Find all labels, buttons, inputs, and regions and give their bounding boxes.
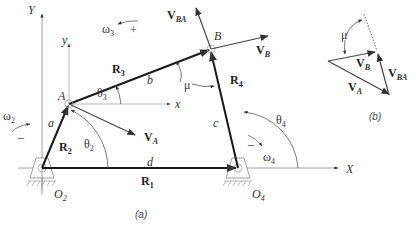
mu-label: μ	[184, 78, 190, 92]
link-r4	[211, 52, 238, 168]
point-a-label: A	[57, 89, 66, 103]
point-o2-label: O2	[54, 187, 67, 203]
link-r2	[42, 106, 68, 168]
length-a-label: a	[48, 116, 54, 130]
mu-arrow-to-r4	[192, 84, 214, 87]
va-label: VA	[144, 130, 159, 146]
triangle-mu-label: μ	[341, 28, 347, 42]
omega3-label: ω3	[102, 22, 114, 38]
length-d-label: d	[147, 155, 154, 169]
theta4-label: θ4	[276, 113, 286, 129]
vba-label: VBA	[167, 8, 187, 24]
r4-label: R4	[230, 73, 243, 89]
triangle-va-label: VA	[348, 80, 363, 96]
omega2-sign: –	[17, 130, 25, 144]
global-axes: Y X	[18, 3, 354, 190]
velocity-vba-vector	[196, 8, 211, 49]
vb-label: VB	[256, 43, 271, 59]
r2-label: R2	[59, 140, 72, 156]
velocity-va-vector	[69, 104, 135, 135]
global-y-label: Y	[28, 3, 36, 17]
mu-arrow-to-r3	[176, 62, 181, 82]
triangle-mu-arrow-bottom	[345, 40, 346, 54]
global-x-label: X	[345, 162, 354, 176]
link-r3	[69, 50, 209, 104]
triangle-vb-label: VB	[356, 56, 371, 72]
theta2-label: θ2	[84, 137, 94, 153]
theta3-label: θ3	[97, 86, 107, 102]
part-a-linkage: Y X y x	[3, 3, 354, 220]
caption-a: (a)	[135, 209, 147, 220]
point-b-label: B	[214, 29, 222, 43]
point-o4-label: O4	[252, 187, 265, 203]
caption-b: (b)	[369, 111, 381, 122]
triangle-vba-label: VBA	[388, 66, 408, 82]
omega4-sign: –	[247, 137, 255, 151]
ground-pivot-o2	[27, 158, 56, 195]
r1-label: R1	[141, 174, 154, 190]
triangle-vb-vector	[328, 52, 375, 61]
r3-label: R3	[112, 62, 125, 78]
reference-dotted-line	[364, 14, 377, 51]
triangle-mu-arrow-top	[346, 20, 362, 36]
local-x-label: x	[174, 97, 181, 111]
part-b-velocity-triangle: μ VB VA VBA (b)	[328, 14, 408, 122]
omega4-label: ω4	[263, 150, 275, 166]
omega3-sign: +	[130, 23, 137, 37]
theta3-arc	[116, 86, 121, 104]
length-c-label: c	[213, 116, 219, 130]
omega2-label: ω2	[3, 109, 15, 125]
local-y-label: y	[61, 33, 68, 47]
length-b-label: b	[147, 73, 153, 87]
fourbar-velocity-diagram: Y X y x	[0, 0, 416, 226]
